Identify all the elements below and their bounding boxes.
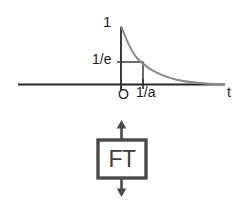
- time-constant-label: 1/a: [136, 85, 155, 99]
- t-axis-label: t: [227, 85, 231, 99]
- peak-value-label: 1: [103, 14, 111, 29]
- figure-canvas: 1 1/e O 1/a t FT: [0, 0, 247, 204]
- arrow-down-icon: [117, 189, 127, 198]
- exponential-decay-curve: [122, 27, 225, 84]
- arrow-up-icon: [117, 120, 127, 129]
- origin-label: O: [118, 87, 129, 101]
- decay-level-label: 1/e: [92, 52, 111, 66]
- ft-box-label: FT: [98, 140, 146, 178]
